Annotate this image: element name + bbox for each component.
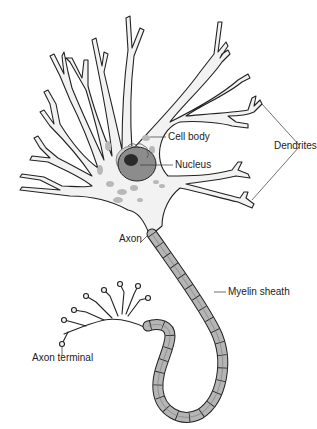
label-nucleus: Nucleus [175, 159, 211, 171]
label-axon: Axon [119, 233, 142, 245]
myelin-sheath [148, 234, 223, 417]
neuron-diagram [0, 0, 317, 429]
label-cell-body: Cell body [168, 131, 210, 143]
label-dendrites: Dendrites [274, 140, 317, 152]
label-axon-terminal: Axon terminal [32, 352, 93, 364]
neuron-body [20, 16, 262, 236]
axon-terminal-branches [60, 282, 151, 347]
label-myelin-sheath: Myelin sheath [228, 286, 290, 298]
